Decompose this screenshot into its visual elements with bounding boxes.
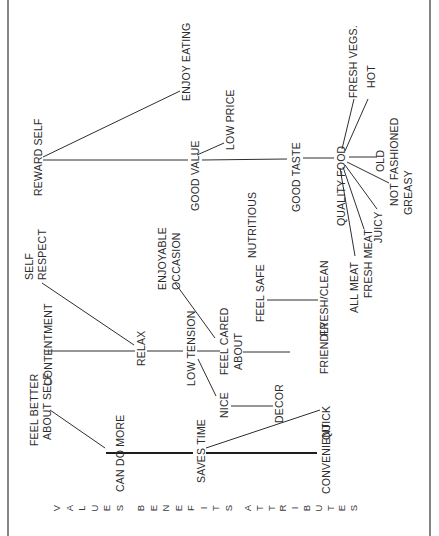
node-nutritious: NUTRITIOUS bbox=[246, 192, 258, 258]
level-letter: S bbox=[114, 505, 125, 511]
level-letter: I bbox=[198, 507, 209, 510]
link-feelbetter-candomore bbox=[50, 410, 105, 448]
node-feel-better-line1: FEEL BETTER bbox=[28, 373, 40, 446]
node-old-fashioned-line2: FASHIONED bbox=[388, 117, 400, 180]
level-letter: F bbox=[185, 505, 196, 511]
node-saves-time: SAVES TIME bbox=[195, 419, 207, 483]
level-letter: U bbox=[89, 504, 100, 511]
node-feel-safe: FEEL SAFE bbox=[254, 264, 266, 322]
node-fresh-meat: FRESH MEAT bbox=[362, 229, 374, 298]
link-reward-enjoy bbox=[43, 91, 180, 157]
means-end-ladder-diagram: REWARD SELF ENJOY EATING GOOD VALUE LOW … bbox=[0, 0, 439, 536]
node-enjoy-eating: ENJOY EATING bbox=[180, 23, 192, 101]
level-letter: S bbox=[223, 505, 234, 511]
link-goodvalue-lowprice bbox=[197, 143, 224, 155]
node-good-value: GOOD VALUE bbox=[189, 140, 201, 211]
node-relax: RELAX bbox=[135, 331, 147, 366]
node-feel-cared-about-line2: ABOUT bbox=[232, 332, 244, 370]
node-low-tension: LOW TENSION bbox=[185, 310, 197, 386]
level-letter: A bbox=[242, 504, 253, 511]
level-benefits: BENEFITS bbox=[135, 504, 234, 511]
node-quality-food: QUALITY FOOD bbox=[335, 145, 347, 226]
node-decor: DECOR bbox=[273, 384, 285, 423]
level-letter: V bbox=[51, 504, 62, 511]
level-letter: E bbox=[173, 505, 184, 511]
level-letter: B bbox=[301, 505, 312, 511]
node-old-fashioned-line1: OLD bbox=[374, 150, 386, 172]
link-goodvalue-goodtaste bbox=[202, 159, 287, 160]
node-can-do-more: CAN DO MORE bbox=[114, 415, 126, 492]
level-attributes: ATTRIBUTES bbox=[242, 504, 359, 511]
level-letter: T bbox=[266, 505, 277, 511]
node-enjoyable-occasion-line2: OCCASION bbox=[170, 232, 182, 290]
level-letter: T bbox=[325, 505, 336, 511]
node-reward-self: REWARD SELF bbox=[32, 118, 44, 196]
level-letter: U bbox=[313, 504, 324, 511]
connector-lines bbox=[42, 91, 389, 453]
node-not-greasy-line1: NOT bbox=[388, 183, 400, 206]
node-hot: HOT bbox=[365, 65, 377, 88]
level-letter: N bbox=[160, 504, 171, 511]
node-labels: REWARD SELF ENJOY EATING GOOD VALUE LOW … bbox=[23, 23, 414, 494]
level-letter: A bbox=[64, 504, 75, 511]
node-all-meat: ALL MEAT bbox=[348, 261, 360, 313]
node-convenient: CONVENIENT bbox=[320, 423, 332, 494]
link-quality-hot bbox=[345, 99, 368, 151]
level-letter: E bbox=[336, 505, 347, 511]
level-letter: T bbox=[254, 505, 265, 511]
node-feel-better-line2: ABOUT SELF bbox=[41, 373, 53, 440]
node-low-price: LOW PRICE bbox=[224, 89, 236, 150]
level-values: VALUES bbox=[51, 504, 125, 511]
node-self-respect-line2: RESPECT bbox=[36, 229, 48, 280]
link-selfrespect-relax bbox=[42, 283, 134, 345]
node-enjoyable-occasion-line1: ENJOYABLE bbox=[156, 227, 168, 290]
node-friendly: FRIENDLY bbox=[318, 321, 330, 374]
level-letter: E bbox=[101, 505, 112, 511]
level-letter: E bbox=[148, 505, 159, 511]
level-letter: B bbox=[135, 505, 146, 511]
node-not-greasy-line2: GREASY bbox=[402, 170, 414, 215]
node-feel-cared-about-line1: FEEL CARED bbox=[218, 307, 230, 375]
level-letter: I bbox=[289, 507, 300, 510]
level-letter: L bbox=[76, 505, 87, 510]
node-good-taste: GOOD TASTE bbox=[290, 142, 302, 212]
level-labels: VALUES BENEFITS ATTRIBUTES bbox=[51, 504, 359, 511]
level-letter: T bbox=[210, 505, 221, 511]
link-lowtension-nice bbox=[198, 359, 216, 396]
link-quality-freshvegs bbox=[342, 99, 354, 149]
level-letter: R bbox=[277, 504, 288, 511]
node-nice: NICE bbox=[218, 392, 230, 418]
node-fresh-vegs: FRESH VEGS. bbox=[347, 25, 359, 98]
node-self-respect-line1: SELF bbox=[23, 253, 35, 280]
level-letter: S bbox=[348, 505, 359, 511]
